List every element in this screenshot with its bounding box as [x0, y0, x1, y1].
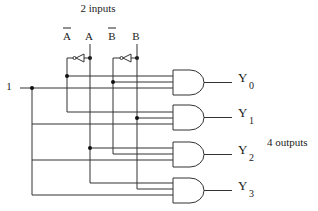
- input-label-a-bar: A: [63, 28, 71, 42]
- output-label-y3: Y 3: [238, 178, 254, 199]
- and-gate-1: [173, 105, 232, 130]
- inputs-title: 2 inputs: [80, 2, 115, 14]
- svg-text:A: A: [85, 30, 93, 42]
- input-label-b: B: [132, 30, 139, 42]
- input-label-a: A: [85, 30, 93, 42]
- svg-text:Y: Y: [238, 70, 248, 85]
- svg-text:Y: Y: [238, 142, 248, 157]
- svg-text:1: 1: [249, 115, 254, 126]
- wire-a: [90, 44, 173, 183]
- svg-text:Y: Y: [238, 178, 248, 193]
- inverter-b: [113, 54, 173, 154]
- wire-enable: [20, 88, 173, 195]
- input-label-b-bar: B: [108, 28, 116, 42]
- inverter-a: [67, 54, 173, 112]
- output-label-y2: Y 2: [238, 142, 254, 163]
- and-gate-0: [173, 70, 232, 95]
- and-gate-3: [173, 178, 232, 203]
- output-label-y1: Y 1: [238, 105, 254, 126]
- svg-text:B: B: [108, 30, 115, 42]
- svg-text:0: 0: [249, 80, 254, 91]
- output-label-y0: Y 0: [238, 70, 254, 91]
- decoder-circuit-diagram: 2 inputs A A B B 1: [0, 0, 318, 211]
- enable-label: 1: [6, 80, 12, 92]
- svg-text:2: 2: [249, 152, 254, 163]
- svg-text:3: 3: [249, 188, 254, 199]
- wire-b: [137, 44, 173, 189]
- svg-text:Y: Y: [238, 105, 248, 120]
- and-gate-2: [173, 142, 232, 167]
- svg-text:A: A: [63, 30, 71, 42]
- svg-text:B: B: [132, 30, 139, 42]
- outputs-title: 4 outputs: [267, 136, 308, 148]
